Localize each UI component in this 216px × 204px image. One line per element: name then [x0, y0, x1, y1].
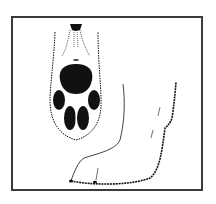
toenail-mark: [69, 180, 73, 183]
toe-pad-center-right: [77, 106, 89, 130]
main-pad: [60, 64, 93, 94]
toe-pad-left: [53, 90, 65, 110]
toe-pad-right: [88, 90, 100, 110]
paw-illustration: [0, 0, 216, 204]
foot-side-view: [71, 82, 176, 184]
toenail-mark-2: [93, 181, 97, 183]
pad-mark: [73, 59, 79, 61]
toe-pad-center-left: [64, 106, 76, 130]
dewclaw-icon: [70, 24, 82, 31]
